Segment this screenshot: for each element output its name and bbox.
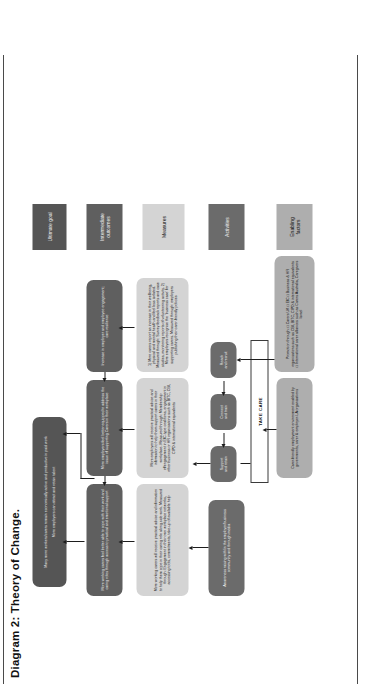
theory-of-change-figure: Diagram 2: Theory of Change. Many more w…: [0, 0, 371, 692]
take-care-text: TAKE CARE: [257, 397, 262, 426]
legend-label-enabling-factors: Enabling factors: [288, 217, 300, 236]
connector-outcome1-to-goal: [66, 541, 84, 542]
activity-connect-text: Connect and train: [219, 405, 228, 419]
measure-3-box: 1) More carers report an increase in the…: [136, 278, 188, 372]
connector-takecare-to-support: [240, 463, 250, 464]
activity-connect-box: Connect and train: [210, 394, 236, 430]
measure-2-text: More employers will receive practical ad…: [149, 382, 175, 474]
activity-support-text: Support and retain: [219, 456, 228, 472]
legend-item-intermediate-outcomes: Intermediate outcomes: [86, 204, 122, 250]
arrowhead-outcome3-to-outcome2: [102, 378, 106, 382]
measure-3-text: 1) More carers report an increase in the…: [147, 282, 178, 368]
legend-label-activities: Activities: [223, 217, 229, 237]
intermediate-outcome-2-box: More employers feel better equipped to a…: [86, 380, 122, 476]
connector-outcome3-down: [80, 478, 94, 479]
connector-measure3-to-outcome3: [122, 327, 134, 328]
intermediate-outcome-3-box: Increase in employer and employee engage…: [86, 280, 122, 372]
arrowhead-enabling1-up: [262, 429, 266, 433]
arrowhead-measure1-to-outcome1: [118, 541, 122, 545]
arrowhead-awareness-to-measure1: [188, 547, 192, 551]
arrowhead-support-to-measures: [192, 463, 196, 467]
arrowhead-outcome2-to-outcome1: [102, 482, 106, 486]
intermediate-outcome-1-box: More working carers feel better able to …: [86, 484, 122, 596]
measure-2-box: More employers will receive practical ad…: [136, 378, 188, 478]
connector-enabling2-to-reach: [240, 359, 274, 360]
legend-item-activities: Activities: [208, 204, 244, 250]
arrowhead-enabling2-to-reach: [236, 359, 240, 363]
arrowhead-reach-to-connect: [221, 392, 225, 396]
arrowhead-connect-to-support: [221, 444, 225, 448]
figure-title: Diagram 2: Theory of Change.: [8, 509, 20, 678]
legend-label-ultimate-goal: Ultimate goal: [46, 212, 52, 241]
intermediate-outcome-3-text: Increase in employer and employee engage…: [100, 284, 109, 368]
legend-item-measures: Measures: [142, 204, 184, 250]
activity-awareness-text: Awareness raising with/in the employer/b…: [222, 504, 231, 592]
arrowhead-outcome3-to-goal: [62, 433, 66, 437]
connector-outcome3-across: [80, 433, 81, 479]
arrowhead-measure2-to-outcome2: [118, 429, 122, 433]
take-care-programme-label: TAKE CARE: [250, 340, 268, 483]
connector-awareness-to-measure1: [192, 547, 208, 548]
activity-reach-text: Reach and recruit: [219, 352, 228, 369]
ultimate-goal-text-1: Many more workers/carers remain economic…: [43, 436, 47, 567]
connector-measure2-to-outcome2: [122, 429, 134, 430]
connector-enabling1-up: [266, 429, 276, 430]
measure-1-text: More working carers will receive practic…: [153, 488, 171, 592]
activity-awareness-box: Awareness raising with/in the employer/b…: [208, 500, 244, 596]
legend-label-measures: Measures: [160, 216, 166, 238]
ultimate-goal-text-2: More employers can attract and retain ta…: [51, 436, 55, 567]
connector-support-to-measures: [196, 463, 210, 464]
arrowhead-measure3-to-outcome3: [118, 327, 122, 331]
arrowhead-outcome1-to-goal: [62, 541, 66, 545]
activity-reach-box: Reach and recruit: [210, 342, 236, 378]
intermediate-outcome-1-text: More working carers feel better able to …: [100, 488, 109, 592]
connector-measure1-to-outcome1: [122, 541, 134, 542]
ultimate-goal-box: Many more workers/carers remain economic…: [32, 417, 66, 587]
enabling-factor-1-box: Carer-friendly employment environment en…: [276, 378, 312, 478]
legend-item-ultimate-goal: Ultimate goal: [32, 204, 66, 250]
legend-label-intermediate-outcomes: Intermediate outcomes: [98, 213, 110, 241]
intermediate-outcome-2-text: More employers feel better equipped to a…: [100, 384, 109, 472]
connector-outcome3-up: [66, 433, 80, 434]
legend-item-enabling-factors: Enabling factors: [276, 204, 312, 250]
enabling-factor-2-box: Promotion through: □ Carers UK □ EfC □ B…: [274, 256, 314, 372]
enabling-factor-2-text: Promotion through: □ Carers UK □ EfC □ B…: [285, 260, 303, 368]
enabling-factor-1-text: Carer-friendly employment environment en…: [290, 382, 299, 474]
measure-1-box: More working carers will receive practic…: [136, 484, 188, 596]
activity-support-box: Support and retain: [210, 446, 236, 482]
